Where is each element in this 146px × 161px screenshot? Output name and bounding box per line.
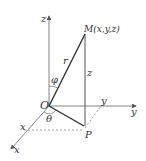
point-m-label: M(x,y,z) <box>84 25 120 34</box>
origin-label: O <box>40 100 49 111</box>
x-axis <box>11 106 49 149</box>
dashed-p-to-y <box>85 106 101 128</box>
segment-om <box>49 34 85 106</box>
segment-op <box>49 106 84 126</box>
diagram-graphics <box>0 0 146 161</box>
r-label: r <box>63 56 68 66</box>
phi-label: φ <box>51 75 58 85</box>
theta-label: θ <box>46 114 52 124</box>
y-axis-label: y <box>131 107 137 117</box>
y-tick-label: y <box>101 96 107 106</box>
x-tick-label: x <box>20 122 26 132</box>
z-height-label: z <box>87 68 92 78</box>
x-axis-label: x <box>14 145 20 155</box>
phi-arc <box>49 86 58 88</box>
spherical-coordinates-diagram: z M(x,y,z) r φ z O θ y y x P x <box>0 0 146 161</box>
point-p-label: P <box>85 130 92 140</box>
z-axis-label: z <box>41 14 46 24</box>
